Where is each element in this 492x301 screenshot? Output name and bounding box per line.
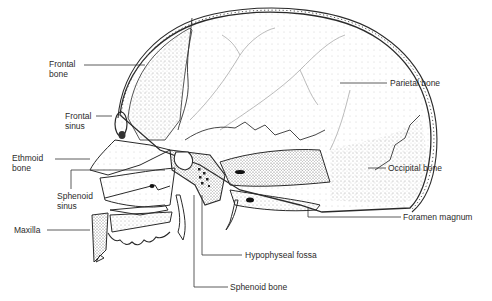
maxilla-shape	[92, 212, 172, 262]
label-line: Frontal	[49, 59, 75, 69]
label-line: Ethmoid	[12, 153, 43, 163]
label-line: sinus	[65, 121, 91, 131]
label-line: sinus	[57, 201, 93, 211]
label-ethmoid-bone: Ethmoid bone	[12, 153, 43, 173]
label-sphenoid-sinus: Sphenoid sinus	[57, 191, 93, 211]
label-occipital-bone: Occipital bone	[388, 163, 442, 173]
label-line: Frontal	[65, 111, 91, 121]
label-foramen-magnum: Foramen magnum	[403, 212, 472, 222]
label-maxilla: Maxilla	[14, 225, 40, 235]
pterygoid-process	[176, 195, 185, 240]
nasal-ethmoid-region	[90, 140, 175, 215]
label-line: bone	[12, 163, 43, 173]
label-frontal-sinus: Frontal sinus	[65, 111, 91, 131]
label-parietal-bone: Parietal bone	[390, 78, 440, 88]
label-hypophyseal-fossa: Hypophyseal fossa	[245, 250, 317, 260]
hypoglossal-canal	[246, 198, 254, 203]
internal-acoustic-meatus	[235, 170, 245, 174]
label-sphenoid-bone: Sphenoid bone	[230, 282, 287, 292]
label-line: bone	[49, 69, 75, 79]
frontal-sinus-dark	[119, 131, 126, 139]
label-line: Sphenoid	[57, 191, 93, 201]
label-frontal-bone: Frontal bone	[49, 59, 75, 79]
